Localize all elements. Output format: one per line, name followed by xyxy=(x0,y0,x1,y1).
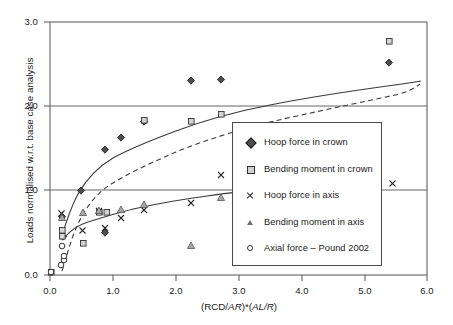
cross-icon xyxy=(242,189,258,201)
plot-canvas xyxy=(0,0,453,325)
legend-label: Axial force – Pound 2002 xyxy=(264,243,369,253)
x-axis-title-p2: AR xyxy=(228,301,242,312)
open-circle-icon xyxy=(242,242,258,254)
y-tick-label-3: 3.0 xyxy=(12,16,38,27)
x-tick-label-5: 5.0 xyxy=(350,285,380,296)
y-axis-ticks xyxy=(44,22,50,275)
legend-item-hoop-force-in-crown[interactable]: Hoop force in crown xyxy=(233,129,381,156)
legend-item-axial-force-pound-2002[interactable]: Axial force – Pound 2002 xyxy=(233,235,381,262)
legend-item-bending-moment-in-crown[interactable]: Bending moment in crown xyxy=(233,156,381,183)
legend-item-hoop-force-in-axis[interactable]: Hoop force in axis xyxy=(233,182,381,209)
x-tick-label-0: 0.0 xyxy=(35,285,65,296)
x-axis-title-p3: )*( xyxy=(242,301,252,312)
x-axis-title-p4: AL/R xyxy=(252,301,274,312)
x-axis-title-p1: (RCD/ xyxy=(201,301,228,312)
x-tick-label-6: 6.0 xyxy=(412,285,442,296)
y-axis-title: Loads normalised w.r.t. base case analys… xyxy=(24,36,35,266)
legend-label: Bending moment in crown xyxy=(264,164,373,174)
chart-legend: Hoop force in crown Bending moment in cr… xyxy=(232,122,382,266)
x-tick-label-3: 3.0 xyxy=(224,285,254,296)
chart-figure: 3.0 2.0 1.0 0.0 0.0 1.0 2.0 3.0 4.0 5.0 … xyxy=(0,0,453,325)
x-tick-label-2: 2.0 xyxy=(161,285,191,296)
x-axis-ticks xyxy=(50,275,427,281)
x-axis-title: (RCD/AR)*(AL/R) xyxy=(50,301,428,312)
x-tick-label-4: 4.0 xyxy=(287,285,317,296)
legend-label: Hoop force in crown xyxy=(264,137,348,147)
filled-diamond-icon xyxy=(242,136,258,148)
y-tick-label-0: 0.0 xyxy=(12,269,38,280)
legend-label: Hoop force in axis xyxy=(264,190,339,200)
open-square-icon xyxy=(242,163,258,175)
x-axis-title-p5: ) xyxy=(274,301,277,312)
x-tick-label-1: 1.0 xyxy=(98,285,128,296)
series-axial-force-pound-2002 xyxy=(48,243,67,275)
legend-item-bending-moment-in-axis[interactable]: Bending moment in axis xyxy=(233,209,381,236)
legend-label: Bending moment in axis xyxy=(264,217,364,227)
open-triangle-icon xyxy=(242,216,258,228)
